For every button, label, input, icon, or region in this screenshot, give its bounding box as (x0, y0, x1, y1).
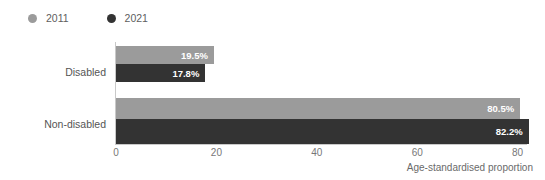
x-tick-20: 20 (211, 147, 222, 159)
plot-area: Disabled 19.5% 17.8% Non-disabled 80.5% … (0, 0, 545, 180)
category-label-disabled: Disabled (0, 66, 106, 78)
bar-non-disabled-2021[interactable]: 82.2% (116, 119, 529, 144)
bar-value-label: 80.5% (487, 103, 520, 114)
bar-disabled-2021[interactable]: 17.8% (116, 64, 205, 82)
bar-non-disabled-2011[interactable]: 80.5% (116, 98, 520, 119)
category-label-non-disabled: Non-disabled (0, 118, 106, 130)
bar-value-label: 17.8% (172, 68, 205, 79)
x-tick-40: 40 (311, 147, 322, 159)
x-tick-60: 60 (412, 147, 423, 159)
x-axis-title: Age-standardised proportion (407, 162, 533, 174)
x-tick-80: 80 (512, 147, 523, 159)
category-label-text: Non-disabled (44, 118, 106, 130)
bar-value-label: 19.5% (181, 50, 214, 61)
bar-chart: 2011 2021 Disabled 19.5% 17.8% Non-disab… (0, 0, 545, 180)
x-axis-line (115, 144, 527, 145)
category-label-text: Disabled (65, 66, 106, 78)
x-tick-0: 0 (113, 147, 119, 159)
bar-value-label: 82.2% (496, 126, 529, 137)
bar-disabled-2011[interactable]: 19.5% (116, 46, 214, 64)
